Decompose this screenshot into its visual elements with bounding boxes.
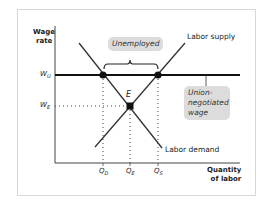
tick-wu: WU (40, 70, 51, 79)
tick-qd: QD (99, 167, 108, 176)
tick-we: WE (40, 101, 50, 110)
y-axis-label: Wage rate (33, 28, 55, 46)
labor-demand-label: Labor demand (165, 145, 219, 154)
labor-supply-curve (95, 43, 185, 147)
tick-qe: QE (126, 167, 135, 176)
point-qd (99, 71, 106, 78)
unemployed-brace (104, 60, 158, 69)
labor-supply-label: Labor supply (187, 32, 235, 41)
union-wage-callout: Union- negotiated wage (184, 86, 230, 120)
equilibrium-label: E (126, 90, 131, 99)
unemployed-callout: Unemployed (108, 37, 163, 51)
tick-qs: QS (154, 167, 163, 176)
labor-demand-curve (79, 43, 162, 148)
point-equilibrium (127, 103, 134, 110)
point-qs (154, 71, 161, 78)
x-axis-label: Quantity of labor (207, 166, 241, 184)
